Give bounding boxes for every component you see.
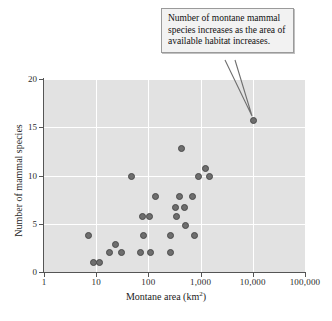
data-point	[96, 259, 103, 266]
scatter-plot-figure: 1101001,00010,000100,00005101520 Montane…	[0, 0, 332, 321]
annotation-callout: Number of montane mammal species increas…	[161, 8, 294, 53]
x-axis-tick-label: 1	[42, 277, 47, 287]
y-axis-tick	[39, 224, 43, 225]
x-axis-line	[43, 272, 306, 273]
x-axis-title-text: Montane area (km	[126, 291, 199, 302]
x-axis-tick-label: 10	[91, 277, 100, 287]
data-point	[167, 232, 174, 239]
data-point	[206, 173, 213, 180]
gridline-vertical	[305, 79, 306, 272]
gridline-horizontal	[44, 224, 305, 225]
gridline-vertical	[253, 79, 254, 272]
gridline-horizontal	[44, 176, 305, 177]
y-axis-tick	[39, 176, 43, 177]
x-axis-tick-label: 100,000	[290, 277, 321, 287]
gridline-vertical	[96, 79, 97, 272]
data-point	[191, 232, 198, 239]
y-axis-title: Number of mammal species	[13, 81, 24, 281]
data-point	[152, 193, 159, 200]
x-axis-tick-label: 10,000	[240, 277, 266, 287]
gridline-horizontal	[44, 127, 305, 128]
data-point	[118, 249, 125, 256]
x-axis-tick-label: 1,000	[190, 277, 211, 287]
data-point	[195, 173, 202, 180]
gridline-vertical	[148, 79, 149, 272]
x-axis-title-close: )	[203, 291, 206, 302]
data-point	[178, 145, 185, 152]
data-point	[85, 232, 92, 239]
y-axis-tick	[39, 79, 43, 80]
data-point	[140, 232, 147, 239]
x-axis-title: Montane area (km2)	[0, 290, 332, 302]
y-axis-tick	[39, 272, 43, 273]
data-point	[172, 204, 179, 211]
y-axis-tick	[39, 127, 43, 128]
y-axis-line	[43, 78, 44, 273]
gridline-horizontal	[44, 79, 305, 80]
x-axis-tick-label: 100	[141, 277, 155, 287]
